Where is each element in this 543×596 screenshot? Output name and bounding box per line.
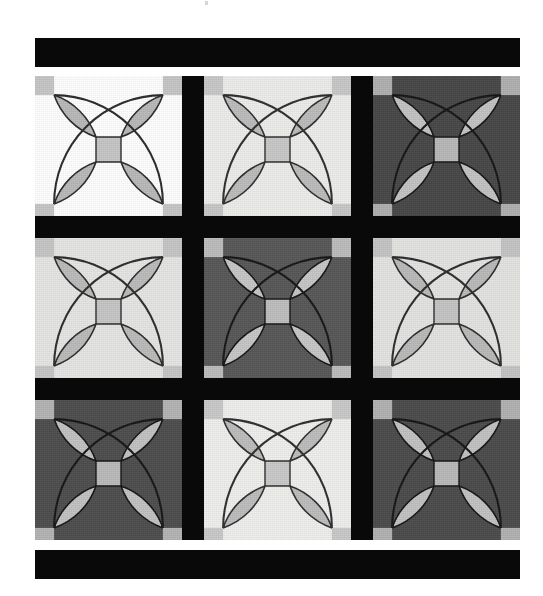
center-block xyxy=(204,238,351,378)
block-motif xyxy=(373,76,520,216)
vertical-sashing-strip xyxy=(351,76,373,216)
horizontal-sashing-strip xyxy=(35,378,182,400)
corner-square-bl xyxy=(373,366,392,378)
corner-square-bl xyxy=(204,204,223,216)
corner-square-br xyxy=(501,366,520,378)
middle-right-block xyxy=(373,238,520,378)
horizontal-sashing-strip xyxy=(182,378,204,400)
corner-square-br xyxy=(332,204,351,216)
corner-square-tr xyxy=(501,76,520,95)
vertical-sashing-strip xyxy=(182,238,204,378)
corner-square-bl xyxy=(35,366,54,378)
corner-square-tl xyxy=(35,238,54,257)
bottom-left-block xyxy=(35,400,182,540)
block-motif xyxy=(373,238,520,378)
center-square xyxy=(434,137,459,162)
horizontal-sashing-strip xyxy=(35,216,182,238)
corner-square-br xyxy=(163,204,182,216)
corner-square-bl xyxy=(204,366,223,378)
corner-square-br xyxy=(501,204,520,216)
horizontal-sashing-strip xyxy=(373,216,520,238)
center-square xyxy=(265,137,290,162)
top-right-block xyxy=(373,76,520,216)
horizontal-sashing-strip xyxy=(204,378,351,400)
horizontal-sashing-strip xyxy=(182,216,204,238)
center-square xyxy=(96,137,121,162)
corner-square-tr xyxy=(501,238,520,257)
corner-square-tl xyxy=(204,76,223,95)
corner-square-br xyxy=(163,366,182,378)
block-motif xyxy=(35,76,182,216)
corner-square-br xyxy=(501,528,520,540)
corner-square-tl xyxy=(373,238,392,257)
center-square xyxy=(265,299,290,324)
horizontal-sashing-strip xyxy=(373,378,520,400)
horizontal-sashing-strip xyxy=(351,216,373,238)
center-square xyxy=(434,461,459,486)
bottom-center-block xyxy=(204,400,351,540)
vertical-sashing-strip xyxy=(351,238,373,378)
corner-square-bl xyxy=(204,528,223,540)
corner-square-tr xyxy=(163,400,182,419)
block-motif xyxy=(373,400,520,540)
corner-square-tr xyxy=(332,400,351,419)
center-square xyxy=(96,299,121,324)
vertical-sashing-strip xyxy=(182,76,204,216)
block-motif xyxy=(204,238,351,378)
top-binding-strip xyxy=(35,38,520,67)
horizontal-sashing-strip xyxy=(351,378,373,400)
bottom-binding-strip xyxy=(35,550,520,579)
corner-square-tl xyxy=(373,76,392,95)
corner-square-bl xyxy=(373,204,392,216)
vertical-sashing-strip xyxy=(351,400,373,540)
corner-square-bl xyxy=(35,528,54,540)
corner-square-br xyxy=(332,528,351,540)
block-motif xyxy=(204,76,351,216)
corner-square-tr xyxy=(332,76,351,95)
corner-square-tr xyxy=(163,76,182,95)
scan-artifact-mark xyxy=(205,1,208,5)
bottom-right-block xyxy=(373,400,520,540)
corner-square-br xyxy=(332,366,351,378)
block-motif xyxy=(35,238,182,378)
corner-square-bl xyxy=(373,528,392,540)
top-left-block xyxy=(35,76,182,216)
quilt-illustration-canvas xyxy=(0,0,543,596)
middle-left-block xyxy=(35,238,182,378)
quilt-block-grid xyxy=(35,76,520,540)
top-center-block xyxy=(204,76,351,216)
block-motif xyxy=(204,400,351,540)
vertical-sashing-strip xyxy=(182,400,204,540)
corner-square-tl xyxy=(204,400,223,419)
corner-square-bl xyxy=(35,204,54,216)
corner-square-tl xyxy=(204,238,223,257)
corner-square-tl xyxy=(35,76,54,95)
corner-square-tr xyxy=(163,238,182,257)
center-square xyxy=(265,461,290,486)
block-motif xyxy=(35,400,182,540)
corner-square-tl xyxy=(35,400,54,419)
corner-square-tl xyxy=(373,400,392,419)
corner-square-tr xyxy=(501,400,520,419)
horizontal-sashing-strip xyxy=(204,216,351,238)
corner-square-br xyxy=(163,528,182,540)
center-square xyxy=(434,299,459,324)
center-square xyxy=(96,461,121,486)
corner-square-tr xyxy=(332,238,351,257)
quilt-center-panel xyxy=(35,76,520,540)
